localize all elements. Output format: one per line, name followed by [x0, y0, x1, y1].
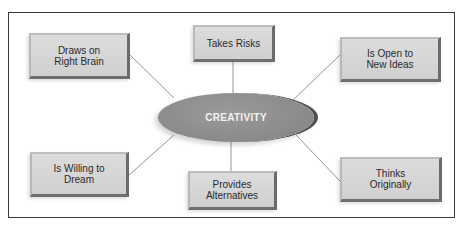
- node-is-willing-to-dream: Is Willing to Dream: [30, 152, 129, 197]
- connector-bottom-right: [296, 135, 340, 181]
- hub-label: CREATIVITY: [205, 112, 267, 123]
- center-hub-ellipse: CREATIVITY: [158, 93, 314, 142]
- connector-top-right: [292, 55, 340, 101]
- connector-bottom-left: [128, 135, 174, 176]
- node-label: Takes Risks: [207, 38, 260, 49]
- node-thinks-originally: Thinks Originally: [340, 157, 442, 202]
- node-draws-on-right-brain: Draws on Right Brain: [29, 33, 130, 79]
- node-label: Thinks Originally: [370, 168, 412, 190]
- node-provides-alternatives: Provides Alternatives: [188, 171, 277, 210]
- node-label: Provides Alternatives: [206, 179, 258, 201]
- node-takes-risks: Takes Risks: [193, 25, 275, 62]
- connector-top-left: [130, 55, 174, 98]
- node-is-open-to-new-ideas: Is Open to New Ideas: [340, 37, 441, 82]
- node-label: Draws on Right Brain: [54, 45, 103, 67]
- node-label: Is Open to New Ideas: [366, 48, 413, 70]
- node-label: Is Willing to Dream: [53, 163, 104, 185]
